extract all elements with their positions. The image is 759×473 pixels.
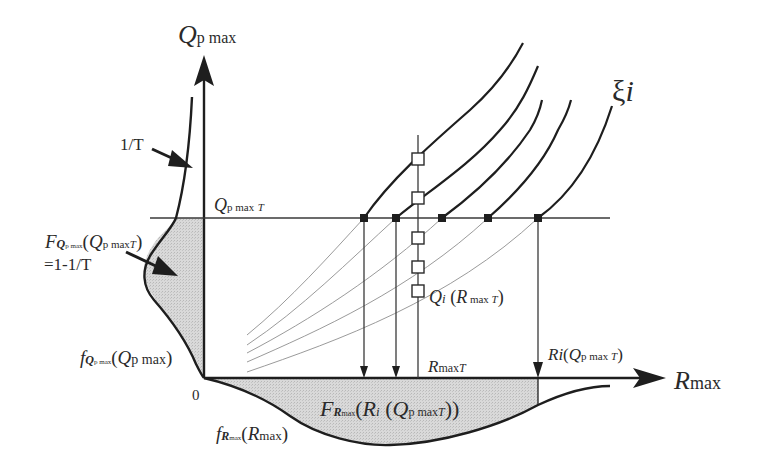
rmax-t-label: RmaxT xyxy=(428,358,466,375)
filled-square-marker xyxy=(392,214,400,222)
cdf-q-label: FQp max(Qp maxT) xyxy=(45,232,142,251)
arrow-icon xyxy=(168,150,193,168)
y-axis-label: Qp max xyxy=(178,22,236,48)
open-square-marker xyxy=(412,261,424,273)
down-arrow-icon xyxy=(533,362,543,378)
threshold-label: Qp max T xyxy=(214,196,264,214)
down-arrow-icon xyxy=(360,366,368,378)
cdf-r-label: FRmax(Ri (Qp maxT)) xyxy=(320,398,459,420)
filled-square-marker xyxy=(360,214,368,222)
open-square-marker xyxy=(412,192,424,204)
return-period-label: 1/T xyxy=(120,136,144,153)
x-axis-label: Rmax xyxy=(674,368,721,394)
xi-upper-curves xyxy=(364,43,612,218)
ri-qpmax-t-label: Ri(Qp max T) xyxy=(548,346,623,363)
open-square-marker xyxy=(412,153,424,165)
origin-label: 0 xyxy=(192,388,200,403)
filled-square-marker xyxy=(484,214,492,222)
cdf-q-equals-label: =1-1/T xyxy=(44,256,91,273)
pdf-q-label: fQp max(Qp max) xyxy=(80,348,172,367)
qi-rmax-t-label: Qi (R max T) xyxy=(429,288,504,306)
down-arrow-icon xyxy=(392,366,400,378)
open-square-marker xyxy=(412,285,424,297)
filled-square-marker xyxy=(534,214,542,222)
open-square-marker xyxy=(412,232,424,244)
xi-curve-family-label: ξi xyxy=(612,76,634,106)
pdf-r-label: fRmax(Rmax) xyxy=(216,424,288,443)
filled-square-marker xyxy=(438,214,446,222)
